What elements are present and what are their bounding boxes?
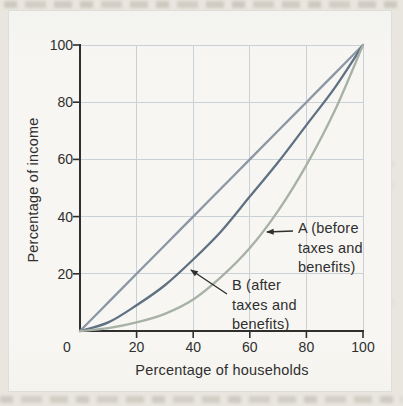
x-tick-label: 20: [129, 340, 145, 355]
arrow-to-curve-a: [267, 231, 293, 232]
y-tick-label: 40: [57, 209, 73, 225]
lorenz-curve-chart: [0, 0, 403, 406]
curve-a-label: A (before taxes and benefits): [298, 219, 363, 278]
y-tick-label: 100: [50, 37, 73, 53]
x-tick-label: 100: [351, 340, 374, 355]
scanned-page: Percentage of income Percentage of house…: [0, 0, 403, 406]
x-tick-label: 40: [185, 340, 201, 355]
y-tick-label: 80: [57, 94, 73, 110]
lorenz-curves: [80, 45, 363, 331]
x-tick-label: 60: [242, 340, 258, 355]
y-tick-label: 20: [57, 266, 73, 282]
curve-b-label: B (after taxes and benefits): [232, 276, 297, 335]
x-tick-label: 80: [299, 340, 315, 355]
equality-line: [80, 45, 363, 331]
x-axis-title: Percentage of households: [135, 362, 308, 378]
y-tick-label: 60: [57, 151, 73, 167]
y-axis-title: Percentage of income: [25, 117, 41, 262]
x-tick-label: 0: [63, 340, 71, 355]
